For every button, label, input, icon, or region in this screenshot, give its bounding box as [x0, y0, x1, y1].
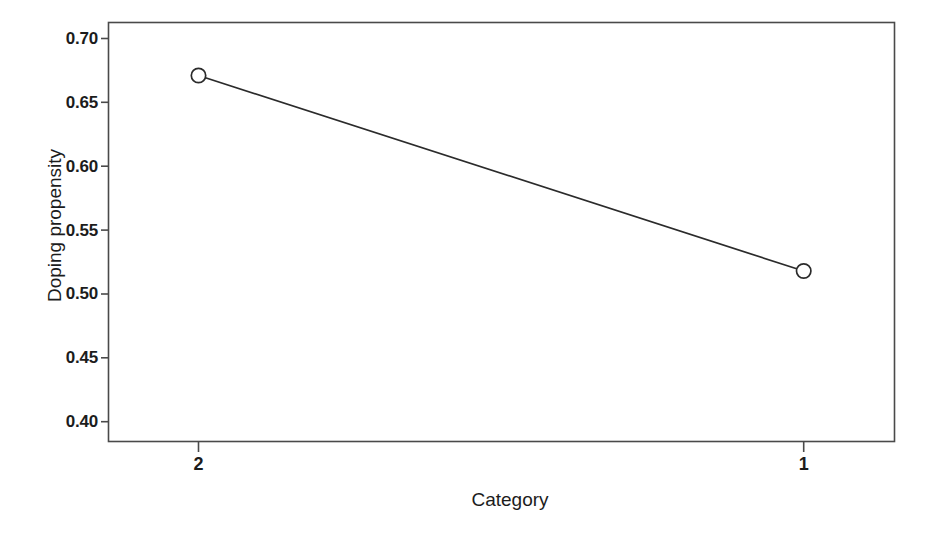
- x-tick-label: 1: [774, 455, 834, 473]
- y-axis-ticks: [101, 39, 109, 422]
- y-axis-title: Doping propensity: [45, 131, 64, 321]
- x-tick-label: 2: [168, 455, 228, 473]
- x-axis-ticks: [199, 442, 804, 453]
- data-point-marker: [191, 68, 205, 82]
- y-tick-label: 0.45: [40, 349, 98, 366]
- y-tick-label: 0.65: [40, 94, 98, 111]
- chart-figure: 0.70 0.65 0.60 0.55 0.50 0.45 0.40 2 1 D…: [0, 0, 926, 535]
- data-point-marker: [797, 264, 811, 278]
- series-line-doping-propensity: [199, 76, 804, 272]
- y-tick-label: 0.40: [40, 413, 98, 430]
- x-axis-title: Category: [410, 490, 610, 509]
- y-tick-label: 0.70: [40, 30, 98, 47]
